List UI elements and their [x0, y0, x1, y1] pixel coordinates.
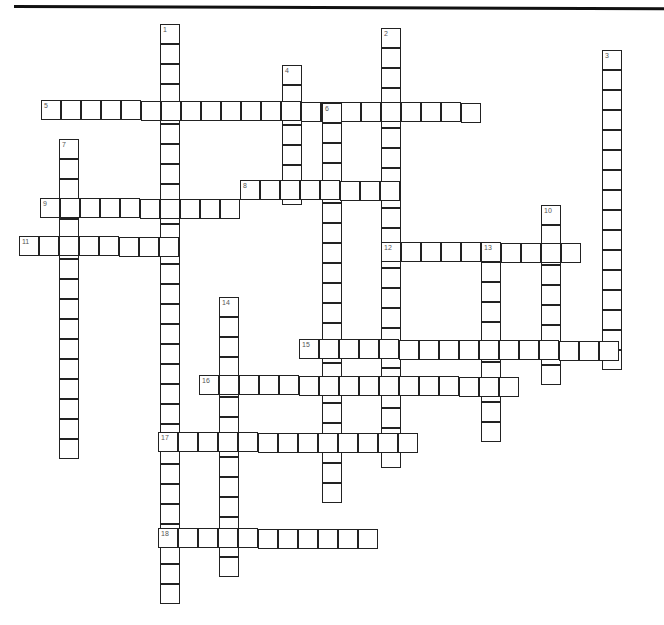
crossword-cell[interactable] [299, 376, 319, 396]
crossword-cell[interactable] [322, 203, 342, 223]
crossword-cell[interactable] [381, 48, 401, 68]
crossword-cell[interactable] [119, 237, 139, 257]
crossword-cell[interactable] [180, 199, 200, 219]
crossword-cell[interactable] [59, 236, 79, 256]
crossword-cell[interactable] [322, 463, 342, 483]
crossword-cell[interactable]: 7 [59, 139, 79, 159]
crossword-cell[interactable] [259, 375, 279, 395]
crossword-cell[interactable] [360, 181, 380, 201]
crossword-cell[interactable] [541, 285, 561, 305]
crossword-cell[interactable] [220, 199, 240, 219]
crossword-cell[interactable] [219, 457, 239, 477]
crossword-cell[interactable] [300, 180, 320, 200]
crossword-cell[interactable] [481, 282, 501, 302]
crossword-cell[interactable] [221, 101, 241, 121]
crossword-cell[interactable] [322, 403, 342, 423]
crossword-cell[interactable] [599, 341, 619, 361]
crossword-cell[interactable]: 10 [541, 205, 561, 225]
crossword-cell[interactable] [361, 102, 381, 122]
crossword-cell[interactable] [59, 339, 79, 359]
crossword-cell[interactable] [261, 101, 281, 121]
crossword-cell[interactable] [301, 102, 321, 122]
crossword-cell[interactable] [219, 397, 239, 417]
crossword-cell[interactable] [139, 237, 159, 257]
crossword-cell[interactable] [419, 340, 439, 360]
crossword-cell[interactable] [160, 564, 180, 584]
crossword-cell[interactable] [258, 529, 278, 549]
crossword-cell[interactable] [579, 341, 599, 361]
crossword-cell[interactable] [481, 422, 501, 442]
crossword-cell[interactable] [318, 529, 338, 549]
crossword-cell[interactable]: 5 [41, 100, 61, 120]
crossword-cell[interactable] [160, 404, 180, 424]
crossword-cell[interactable]: 16 [199, 375, 219, 395]
crossword-cell[interactable] [181, 101, 201, 121]
crossword-cell[interactable] [219, 357, 239, 377]
crossword-cell[interactable] [378, 433, 398, 453]
crossword-cell[interactable] [359, 339, 379, 359]
crossword-cell[interactable] [81, 100, 101, 120]
crossword-cell[interactable] [219, 317, 239, 337]
crossword-cell[interactable] [160, 464, 180, 484]
crossword-cell[interactable] [39, 236, 59, 256]
crossword-cell[interactable] [121, 100, 141, 120]
crossword-cell[interactable] [59, 279, 79, 299]
crossword-cell[interactable] [160, 164, 180, 184]
crossword-cell[interactable] [298, 529, 318, 549]
crossword-cell[interactable] [381, 68, 401, 88]
crossword-cell[interactable] [439, 340, 459, 360]
crossword-cell[interactable] [459, 340, 479, 360]
crossword-cell[interactable] [282, 145, 302, 165]
crossword-cell[interactable] [160, 324, 180, 344]
crossword-cell[interactable] [160, 384, 180, 404]
crossword-cell[interactable] [322, 303, 342, 323]
crossword-cell[interactable] [481, 302, 501, 322]
crossword-cell[interactable] [322, 283, 342, 303]
crossword-cell[interactable] [602, 190, 622, 210]
crossword-cell[interactable] [160, 364, 180, 384]
crossword-cell[interactable] [499, 340, 519, 360]
crossword-cell[interactable] [59, 159, 79, 179]
crossword-cell[interactable] [238, 432, 258, 452]
crossword-cell[interactable] [260, 180, 280, 200]
crossword-cell[interactable] [160, 44, 180, 64]
crossword-cell[interactable] [161, 101, 181, 121]
crossword-cell[interactable] [178, 432, 198, 452]
crossword-cell[interactable] [461, 103, 481, 123]
crossword-cell[interactable] [501, 243, 521, 263]
crossword-cell[interactable] [339, 376, 359, 396]
crossword-cell[interactable] [359, 376, 379, 396]
crossword-cell[interactable] [319, 339, 339, 359]
crossword-cell[interactable] [59, 439, 79, 459]
crossword-cell[interactable] [219, 557, 239, 577]
crossword-cell[interactable] [561, 243, 581, 263]
crossword-cell[interactable] [381, 408, 401, 428]
crossword-cell[interactable]: 1 [160, 24, 180, 44]
crossword-cell[interactable] [278, 529, 298, 549]
crossword-cell[interactable]: 2 [381, 28, 401, 48]
crossword-cell[interactable] [602, 290, 622, 310]
crossword-cell[interactable]: 8 [240, 180, 260, 200]
crossword-cell[interactable] [241, 101, 261, 121]
crossword-cell[interactable] [358, 433, 378, 453]
crossword-cell[interactable]: 13 [481, 242, 501, 262]
crossword-cell[interactable] [539, 340, 559, 360]
crossword-cell[interactable] [160, 304, 180, 324]
crossword-cell[interactable] [160, 144, 180, 164]
crossword-cell[interactable] [602, 310, 622, 330]
crossword-cell[interactable] [281, 101, 301, 121]
crossword-cell[interactable] [441, 102, 461, 122]
crossword-cell[interactable] [341, 102, 361, 122]
crossword-cell[interactable] [160, 199, 180, 219]
crossword-cell[interactable] [219, 477, 239, 497]
crossword-cell[interactable] [258, 433, 278, 453]
crossword-cell[interactable] [602, 210, 622, 230]
crossword-cell[interactable] [140, 199, 160, 219]
crossword-cell[interactable] [421, 102, 441, 122]
crossword-cell[interactable] [441, 242, 461, 262]
crossword-cell[interactable] [401, 102, 421, 122]
crossword-cell[interactable] [61, 100, 81, 120]
crossword-cell[interactable] [602, 90, 622, 110]
crossword-cell[interactable]: 9 [40, 198, 60, 218]
crossword-cell[interactable] [238, 528, 258, 548]
